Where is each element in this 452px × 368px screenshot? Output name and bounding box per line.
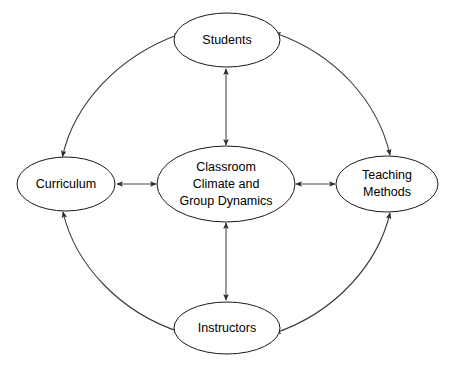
- arc-instructors-teaching-methods: [275, 213, 390, 333]
- node-teaching-methods[interactable]: Teaching Methods: [336, 156, 438, 212]
- node-students[interactable]: Students: [174, 13, 280, 67]
- curriculum-label: Curriculum: [36, 177, 96, 191]
- instructors-label: Instructors: [198, 321, 256, 335]
- arc-curriculum-students: [63, 34, 181, 157]
- node-classroom-climate[interactable]: Classroom Climate and Group Dynamics: [157, 146, 295, 222]
- concept-map-diagram: Students Curriculum Teaching Methods Ins…: [0, 0, 452, 368]
- arc-students-teaching-methods: [275, 33, 390, 155]
- classroom-climate-label-line3: Group Dynamics: [179, 194, 272, 208]
- classroom-climate-label-line1: Classroom: [196, 160, 256, 174]
- node-curriculum[interactable]: Curriculum: [17, 157, 115, 211]
- teaching-methods-label-line2: Methods: [363, 185, 411, 199]
- arc-curriculum-instructors: [63, 212, 180, 332]
- teaching-methods-label-line1: Teaching: [362, 168, 412, 182]
- node-instructors[interactable]: Instructors: [174, 302, 280, 354]
- teaching-methods-ellipse[interactable]: [336, 156, 438, 212]
- students-label: Students: [202, 33, 251, 47]
- classroom-climate-label-line2: Climate and: [193, 177, 260, 191]
- diagram-canvas: Students Curriculum Teaching Methods Ins…: [0, 0, 452, 368]
